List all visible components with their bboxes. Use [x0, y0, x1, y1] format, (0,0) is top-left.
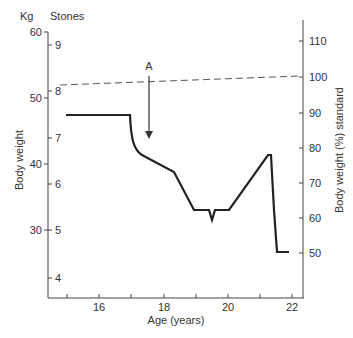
svg-text:40: 40 [30, 158, 42, 170]
right-ticks [299, 41, 303, 253]
body-weight-line [66, 115, 289, 252]
svg-text:100: 100 [309, 71, 327, 83]
standard-weight-line [60, 76, 300, 85]
annotation-a: A [145, 60, 153, 139]
left-axis-title: Body weight [13, 130, 25, 190]
stone-tick-labels: 9 8 7 6 5 4 [55, 39, 61, 284]
right-tick-labels: 110 100 90 80 70 60 50 [309, 35, 327, 259]
svg-text:90: 90 [309, 107, 321, 119]
weight-chart: Kg Stones 60 50 40 30 9 8 7 6 5 4 [0, 0, 353, 338]
svg-text:4: 4 [55, 272, 61, 284]
svg-text:16: 16 [93, 301, 105, 313]
svg-text:22: 22 [286, 301, 298, 313]
kg-tick-labels: 60 50 40 30 [30, 26, 42, 236]
svg-text:5: 5 [55, 224, 61, 236]
arrowhead-icon [145, 131, 153, 139]
svg-text:80: 80 [309, 142, 321, 154]
svg-text:60: 60 [309, 212, 321, 224]
svg-text:18: 18 [158, 301, 170, 313]
svg-text:30: 30 [30, 224, 42, 236]
svg-text:60: 60 [30, 26, 42, 38]
annotation-label: A [145, 60, 153, 72]
svg-text:110: 110 [309, 35, 327, 47]
svg-text:50: 50 [30, 92, 42, 104]
kg-unit-label: Kg [20, 10, 33, 22]
x-ticks [67, 294, 292, 298]
svg-text:9: 9 [55, 39, 61, 51]
unit-labels: Kg Stones [20, 10, 85, 22]
svg-text:20: 20 [222, 301, 234, 313]
stones-unit-label: Stones [50, 10, 85, 22]
right-axis-title: Body weight (%) standard [333, 87, 345, 213]
svg-text:8: 8 [55, 85, 61, 97]
kg-ticks [44, 32, 48, 230]
svg-text:6: 6 [55, 178, 61, 190]
svg-text:70: 70 [309, 177, 321, 189]
x-axis-title: Age (years) [148, 314, 205, 326]
svg-text:50: 50 [309, 247, 321, 259]
svg-text:7: 7 [55, 132, 61, 144]
stone-ticks [48, 45, 52, 278]
x-tick-labels: 16 18 20 22 [93, 301, 298, 313]
